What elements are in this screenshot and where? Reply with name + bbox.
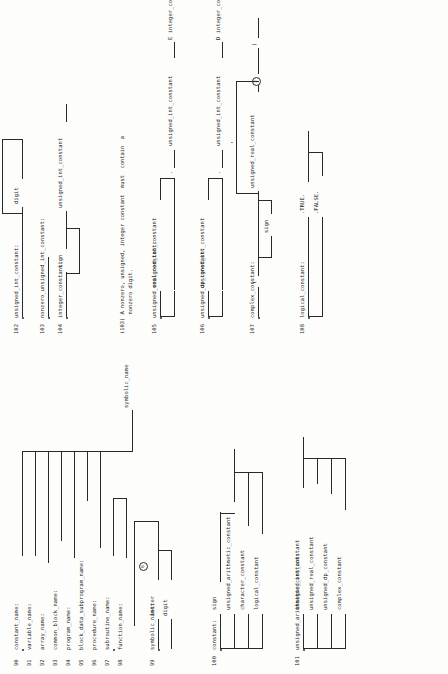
rail-merge: [308, 152, 323, 153]
term-unsigned-int-constant: unsigned_int_constant: [58, 138, 63, 208]
term-character-constant: character_constant: [240, 550, 245, 610]
rail-letter-out: [158, 550, 159, 580]
production-number-105: 105: [152, 324, 157, 334]
term-unsigned-int-constant-1: unsigned_int_constant: [152, 218, 157, 288]
term-digit: digit: [163, 599, 168, 616]
punct-period: .: [168, 171, 173, 174]
entry-dot: [220, 649, 222, 651]
term-unsigned-arithmetic-constant: unsigned_arithmetic_constant: [226, 516, 231, 610]
rail-fan: [208, 316, 223, 317]
rail-to-term: [66, 211, 67, 229]
production-number-103: 103: [40, 324, 45, 334]
rail-96: [100, 451, 101, 548]
rail-to-exp: [174, 42, 175, 58]
entry-dot: [113, 649, 115, 651]
rail-entry: [48, 257, 49, 317]
punct-comma: ,: [228, 141, 233, 144]
rail-entry: [66, 272, 67, 317]
production-number-100: 100: [212, 656, 217, 666]
rail-entry: [158, 619, 159, 649]
production-label-100: constant:: [212, 620, 217, 650]
rail-92: [48, 451, 49, 563]
rail-sign-out: [271, 200, 272, 214]
rail-cc-out: [345, 458, 346, 510]
production-label-96: procedure_name:: [92, 600, 97, 650]
term-symbolic-name: symbolic_name: [124, 365, 129, 409]
rail-uic-out: [160, 178, 161, 200]
rail-90: [22, 451, 23, 556]
rail-join-97-98: [113, 498, 127, 499]
rail-bypass: [174, 178, 175, 290]
production-label-102: unsigned_int_constant:: [14, 244, 19, 318]
entry-dot: [303, 649, 305, 651]
rail-urc-out: [317, 458, 318, 484]
rail-94: [74, 451, 75, 558]
rail-exit: [303, 437, 304, 459]
term-unsigned-real-constant: unsigned_real_constant: [309, 536, 314, 610]
entry-dot: [308, 317, 310, 319]
rail-fan-spine: [303, 648, 346, 649]
production-label-94: program_name:: [66, 607, 71, 651]
term-unsigned-int-constant-2: unsigned_int_constant: [216, 76, 221, 146]
production-label-97: subroutine_name:: [105, 596, 110, 650]
rail-after-period: [174, 150, 175, 168]
production-label-92: array_name:: [40, 613, 45, 650]
production-label-90: constant_name:: [14, 603, 19, 650]
rail-exit: [22, 139, 23, 179]
term-unsigned-int-constant: unsigned_int_constant: [295, 540, 300, 610]
entry-dot: [22, 649, 24, 651]
loop-return-top: [134, 521, 135, 626]
rail-fan-spine: [220, 648, 263, 649]
term-sign: sign: [264, 220, 269, 233]
rail-exit: [158, 521, 159, 551]
rail-exit: [308, 131, 309, 153]
term-unsigned-int-constant-2: unsigned_int_constant: [168, 76, 173, 146]
rail-false-in: [322, 217, 323, 317]
production-number-98: 98: [118, 659, 123, 666]
rail-entry: [258, 287, 259, 317]
rail-after-period: [222, 150, 223, 168]
production-label-95: block_data_subprogram_name:: [79, 560, 84, 650]
rail-entry: [208, 291, 209, 317]
rail-entry: [160, 291, 161, 317]
production-number-95: 95: [79, 659, 84, 666]
loop-return-right: [134, 521, 159, 522]
term-false: .FALSE.: [314, 191, 319, 214]
production-number-93: 93: [53, 659, 58, 666]
loop-return-left: [2, 213, 23, 214]
rail-digit-in: [171, 619, 172, 649]
rail-uic-out: [303, 458, 304, 488]
term-unsigned-int-constant-1: unsigned_int_constant: [200, 218, 205, 288]
production-number-106: 106: [200, 324, 205, 334]
rail-bypass-in: [222, 291, 223, 317]
rail-uic-out: [208, 178, 209, 200]
rail-true-in: [308, 217, 309, 317]
entry-dot: [48, 317, 50, 319]
rail-alt-join: [158, 550, 172, 551]
rail-fan: [160, 316, 175, 317]
term-sign: sign: [212, 597, 217, 610]
production-label-93: common_block_name:: [53, 590, 58, 650]
term-sign: sign: [58, 255, 63, 268]
rail-sign-join: [258, 200, 272, 201]
merge-spine: [22, 451, 132, 452]
production-label-104: integer_constant:: [58, 261, 63, 318]
entry-dot: [160, 317, 162, 319]
term-e-integer-constant: E integer_constant: [168, 0, 173, 40]
rail-alt4: [262, 614, 263, 649]
merge-exit: [132, 410, 133, 452]
rail-sign-bypass: [220, 513, 235, 514]
production-number-94: 94: [66, 659, 71, 666]
rail-logical-out: [262, 472, 263, 534]
right-column: 102 unsigned_int_constant: digit 103 non…: [0, 4, 448, 334]
rail-fan: [258, 257, 272, 258]
rail-merge: [303, 458, 346, 459]
rail-merge: [234, 472, 263, 473]
loop-return-top: [236, 81, 237, 194]
rail-bypass-left: [66, 273, 80, 274]
term-logical-constant: logical_constant: [254, 556, 259, 610]
rail-alt2: [317, 614, 318, 649]
note-103: (103) A nonzero, unsigned, integer const…: [118, 136, 134, 334]
rail-97: [113, 498, 114, 556]
rail-entry: [22, 207, 23, 317]
